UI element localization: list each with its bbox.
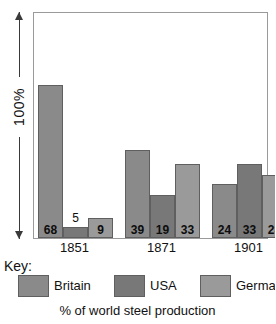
bar-value-label: 19 (150, 224, 175, 237)
key-title: Key: (4, 258, 32, 274)
bar-value-label: 24 (212, 224, 237, 237)
x-axis-label-1901: 1901 (209, 240, 276, 255)
bar-value-label: 33 (237, 224, 262, 237)
bar-rect (38, 85, 63, 238)
y-axis-label: 100% (8, 77, 30, 137)
bar-container: 6859391933243328 (34, 13, 267, 238)
legend-swatch (114, 275, 145, 297)
legend-label: Britain (54, 278, 91, 293)
legend-label: USA (150, 278, 177, 293)
bar-value-label: 9 (88, 224, 113, 237)
bar-value-label: 28 (262, 224, 275, 237)
x-axis-group-labels: 185118711901 (33, 240, 268, 256)
plot-area: 6859391933243328 (33, 12, 268, 239)
bar-value-label: 68 (38, 224, 63, 237)
legend-label: Germany (236, 278, 275, 293)
legend: BritainUSAGermany (4, 275, 272, 299)
y-axis-scale: 100% (8, 12, 32, 239)
legend-swatch (200, 275, 231, 297)
bar-value-label: 39 (125, 224, 150, 237)
arrow-up-icon (15, 12, 23, 20)
bar-value-label: 5 (63, 212, 88, 225)
chart-caption: % of world steel production (0, 303, 275, 318)
legend-swatch (18, 275, 49, 297)
x-axis-label-1851: 1851 (35, 240, 115, 255)
arrow-down-icon (15, 231, 23, 239)
chart-figure: 100% 6859391933243328 185118711901 Key: … (0, 0, 275, 324)
bar-value-label: 33 (175, 224, 200, 237)
bar-rect (63, 227, 88, 238)
x-axis-label-1871: 1871 (122, 240, 202, 255)
